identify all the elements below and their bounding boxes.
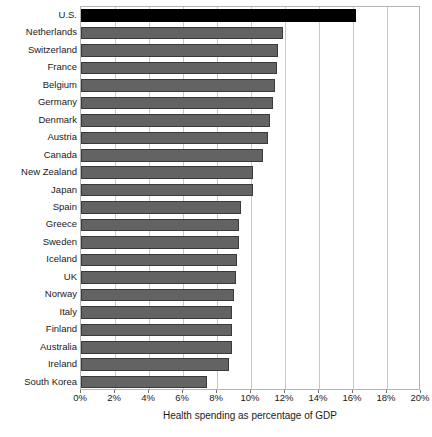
- bar-row: [81, 251, 419, 268]
- bar: [81, 341, 232, 354]
- bar-row: [81, 374, 419, 391]
- bar-row: [81, 286, 419, 303]
- bar: [81, 289, 234, 302]
- bar-row: [81, 59, 419, 76]
- bar: [81, 97, 273, 110]
- bar-row: [81, 234, 419, 251]
- x-axis-tick-label: 16%: [342, 392, 361, 403]
- bar-row: [81, 94, 419, 111]
- bar-row: [81, 199, 419, 216]
- bar: [81, 44, 278, 57]
- y-axis-label: Canada: [0, 146, 77, 163]
- bar-row: [81, 182, 419, 199]
- bar: [81, 376, 207, 389]
- y-axis-label: South Korea: [0, 373, 77, 390]
- y-axis-label: UK: [0, 268, 77, 285]
- bar-row: [81, 304, 419, 321]
- bar: [81, 324, 232, 337]
- bar: [81, 9, 356, 22]
- bar: [81, 79, 275, 92]
- x-axis-tick-label: 0%: [73, 392, 87, 403]
- bar: [81, 271, 236, 284]
- x-axis-tick-mark: [352, 390, 353, 393]
- bar: [81, 114, 270, 127]
- y-axis-label: Germany: [0, 93, 77, 110]
- y-axis-label: Spain: [0, 198, 77, 215]
- x-axis-tick-mark: [318, 390, 319, 393]
- x-axis-tick-label: 18%: [376, 392, 395, 403]
- x-axis-tick-mark: [250, 390, 251, 393]
- bar-row: [81, 321, 419, 338]
- y-axis-label: New Zealand: [0, 163, 77, 180]
- bar-row: [81, 356, 419, 373]
- bar: [81, 166, 253, 179]
- y-axis-label: Belgium: [0, 76, 77, 93]
- bar-row: [81, 7, 419, 24]
- x-axis-tick-mark: [420, 390, 421, 393]
- bar-row: [81, 77, 419, 94]
- bar-row: [81, 164, 419, 181]
- y-axis-label: Australia: [0, 338, 77, 355]
- x-axis-tick-label: 14%: [308, 392, 327, 403]
- bar-chart: U.S.NetherlandsSwitzerlandFranceBelgiumG…: [0, 0, 432, 437]
- y-axis-label: Italy: [0, 303, 77, 320]
- x-axis-tick-mark: [216, 390, 217, 393]
- bar-row: [81, 216, 419, 233]
- x-axis-tick-mark: [386, 390, 387, 393]
- y-axis-category-labels: U.S.NetherlandsSwitzerlandFranceBelgiumG…: [0, 6, 77, 390]
- y-axis-label: Austria: [0, 128, 77, 145]
- y-axis-label: Japan: [0, 181, 77, 198]
- bar: [81, 62, 277, 75]
- x-axis-tick-mark: [80, 390, 81, 393]
- bar: [81, 27, 283, 40]
- y-axis-label: U.S.: [0, 6, 77, 23]
- y-axis-label: Greece: [0, 215, 77, 232]
- x-axis-tick-mark: [148, 390, 149, 393]
- bar: [81, 236, 239, 249]
- x-axis-tick-label: 2%: [107, 392, 121, 403]
- bar-row: [81, 129, 419, 146]
- y-axis-label: Iceland: [0, 250, 77, 267]
- bar-series: [81, 7, 419, 389]
- x-axis-tick-labels: 0%2%4%6%8%10%12%14%16%18%20%: [0, 392, 432, 406]
- x-axis-tick-label: 8%: [209, 392, 223, 403]
- x-axis-tick-label: 20%: [410, 392, 429, 403]
- bar-row: [81, 269, 419, 286]
- x-axis-tick-mark: [182, 390, 183, 393]
- x-axis-title: Health spending as percentage of GDP: [80, 410, 420, 421]
- y-axis-label: Denmark: [0, 111, 77, 128]
- y-axis-label: France: [0, 58, 77, 75]
- bar: [81, 201, 241, 214]
- bar: [81, 149, 263, 162]
- y-axis-label: Norway: [0, 285, 77, 302]
- x-axis-tick-label: 4%: [141, 392, 155, 403]
- x-axis-tick-label: 12%: [274, 392, 293, 403]
- y-axis-label: Ireland: [0, 355, 77, 372]
- bar-row: [81, 24, 419, 41]
- y-axis-label: Finland: [0, 320, 77, 337]
- bar-row: [81, 112, 419, 129]
- x-axis-tick-label: 10%: [240, 392, 259, 403]
- x-axis-tick-mark: [114, 390, 115, 393]
- y-axis-label: Sweden: [0, 233, 77, 250]
- bar: [81, 254, 237, 267]
- bar: [81, 358, 229, 371]
- bar-row: [81, 42, 419, 59]
- bar-row: [81, 147, 419, 164]
- x-axis-tick-label: 6%: [175, 392, 189, 403]
- bar: [81, 219, 239, 232]
- y-axis-label: Switzerland: [0, 41, 77, 58]
- bar: [81, 184, 253, 197]
- plot-area: [80, 6, 420, 390]
- bar: [81, 132, 268, 145]
- y-axis-label: Netherlands: [0, 23, 77, 40]
- x-axis-tick-mark: [284, 390, 285, 393]
- bar-row: [81, 339, 419, 356]
- bar: [81, 306, 232, 319]
